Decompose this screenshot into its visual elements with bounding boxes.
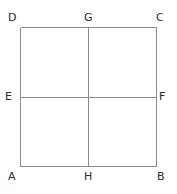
midpoint-label-e: E	[5, 91, 12, 102]
vertex-label-c: C	[156, 12, 164, 23]
vertex-label-a: A	[8, 171, 16, 182]
vertex-label-b: B	[157, 171, 165, 182]
figure-canvas	[0, 0, 177, 194]
midpoint-label-h: H	[84, 171, 92, 182]
geometry-figure: D G C E F A H B	[0, 0, 177, 194]
vertex-label-d: D	[8, 12, 16, 23]
midpoint-label-f: F	[159, 91, 165, 102]
midpoint-label-g: G	[84, 12, 93, 23]
